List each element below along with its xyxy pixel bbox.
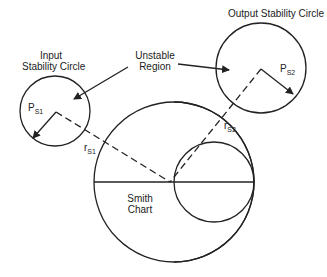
unstable-label-line2: Region bbox=[130, 61, 180, 72]
rs1-symbol: rS1 bbox=[84, 142, 96, 155]
rs1-dashed-line bbox=[56, 112, 170, 182]
smith-label-line2: Chart bbox=[120, 204, 160, 215]
smith-label-line1: Smith bbox=[120, 193, 160, 204]
unstable-region-label: Unstable Region bbox=[130, 50, 180, 72]
output-circle-label: Output Stability Circle bbox=[228, 8, 318, 19]
ps1-symbol: PS1 bbox=[28, 102, 43, 115]
input-label-line2: Stability Circle bbox=[22, 61, 80, 72]
smith-chart-label: Smith Chart bbox=[120, 193, 160, 215]
unstable-arrow-output bbox=[178, 64, 229, 70]
input-circle-label: Input Stability Circle bbox=[22, 50, 80, 72]
input-label-line1: Input bbox=[22, 50, 80, 61]
rs2-dashed-line bbox=[170, 69, 261, 182]
rs2-symbol: rS2 bbox=[224, 120, 236, 133]
unstable-label-line1: Unstable bbox=[130, 50, 180, 61]
ps1-radius-arrow bbox=[33, 112, 56, 138]
stability-diagram bbox=[0, 0, 327, 277]
ps2-symbol: PS2 bbox=[280, 63, 295, 76]
